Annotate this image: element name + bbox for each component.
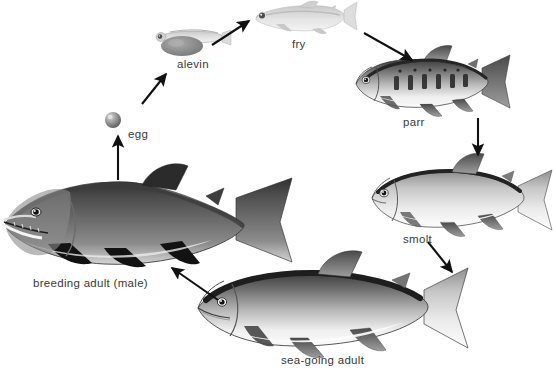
stage-label-alevin: alevin [177,58,209,70]
stage-label-parr: parr [403,116,425,128]
salmon-life-cycle-diagram: egg alevin fry parr smolt sea-going adul… [0,0,556,371]
diagram-canvas [0,0,556,371]
stage-label-breeding-adult-male: breeding adult (male) [33,277,148,289]
arrow-fry-to-parr [364,33,412,60]
arrow-egg-to-alevin [142,74,166,104]
figure-breeding-adult-male [2,164,292,267]
figure-egg [105,112,121,128]
figure-smolt [372,153,552,236]
stage-label-egg: egg [128,128,148,140]
arrow-smolt-to-sea [428,242,452,272]
arrow-sea-to-breeding [172,268,218,300]
figure-alevin [156,30,231,56]
stage-label-smolt: smolt [403,233,432,245]
stage-label-sea-going-adult: sea-going adult [281,354,364,366]
stage-label-fry: fry [292,38,306,50]
figure-fry [256,1,357,34]
figure-sea-going-adult [198,251,468,358]
figure-parr [356,46,510,117]
